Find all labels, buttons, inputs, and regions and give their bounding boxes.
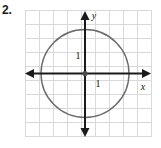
x-axis-label: x (140, 81, 146, 92)
arrow-left-icon (25, 69, 34, 78)
graph-svg: 1 1 x y (25, 10, 152, 137)
arrow-right-icon (142, 69, 151, 78)
origin-point (82, 71, 87, 76)
coordinate-graph: 1 1 x y (25, 10, 152, 137)
y-unit-label: 1 (76, 50, 81, 61)
problem-number-label: 2. (2, 3, 12, 17)
x-unit-label: 1 (96, 78, 101, 89)
y-axis-label: y (91, 10, 97, 21)
figure-container: 2. (0, 0, 161, 148)
